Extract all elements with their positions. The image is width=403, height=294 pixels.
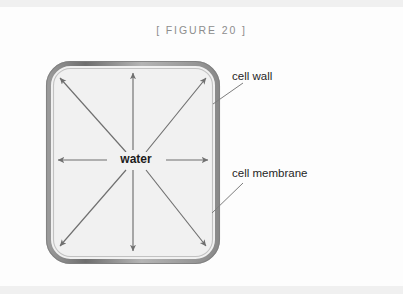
cell-diagram: water cell wall cell membrane	[0, 0, 403, 294]
water-label: water	[107, 152, 165, 166]
figure-page: [ FIGURE 20 ]	[0, 0, 403, 294]
cell-diagram-svg	[0, 0, 403, 294]
callout-label-cell-wall: cell wall	[232, 70, 272, 82]
callout-label-cell-membrane: cell membrane	[232, 167, 307, 179]
